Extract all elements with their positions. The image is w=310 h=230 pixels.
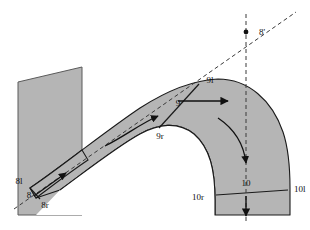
label-9r: 9r <box>156 131 164 141</box>
geometry-diagram: 8l 8 8r 8' 9l 9 9r 10 10r 10l <box>0 0 310 230</box>
point-marker-8-prime <box>244 30 249 35</box>
label-9l: 9l <box>206 75 214 85</box>
label-10l: 10l <box>294 184 306 194</box>
label-8l: 8l <box>15 176 23 186</box>
label-8r: 8r <box>41 200 49 210</box>
label-9: 9 <box>176 98 181 108</box>
label-10: 10 <box>242 178 252 188</box>
label-8-prime: 8' <box>259 27 266 37</box>
label-10r: 10r <box>192 192 204 202</box>
diagram-canvas: 8l 8 8r 8' 9l 9 9r 10 10r 10l <box>0 0 310 230</box>
label-8: 8 <box>27 190 32 200</box>
